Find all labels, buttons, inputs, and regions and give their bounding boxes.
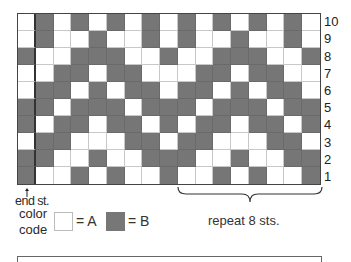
stitch-cell <box>178 167 196 184</box>
stitch-cell <box>142 65 160 82</box>
stitch-cell <box>89 48 107 65</box>
stitch-cell <box>196 31 214 48</box>
stitch-cell <box>36 14 54 31</box>
row-label: 1 <box>324 168 351 185</box>
stitch-cell <box>178 116 196 133</box>
stitch-cell <box>71 31 89 48</box>
stitch-cell <box>54 116 72 133</box>
stitch-cell <box>71 133 89 150</box>
stitch-cell <box>160 48 178 65</box>
stitch-cell <box>36 116 54 133</box>
stitch-cell <box>18 31 36 48</box>
stitch-cell <box>36 31 54 48</box>
row-label: 7 <box>324 65 351 82</box>
stitch-cell <box>160 167 178 184</box>
stitch-cell <box>213 116 231 133</box>
stitch-cell <box>302 82 320 99</box>
stitch-cell <box>107 14 125 31</box>
stitch-cell <box>196 65 214 82</box>
stitch-cell <box>178 99 196 116</box>
stitch-cell <box>284 48 302 65</box>
stitch-cell <box>249 48 267 65</box>
stitch-cell <box>196 82 214 99</box>
stitch-cell <box>196 150 214 167</box>
row-label: 5 <box>324 99 351 116</box>
stitch-cell <box>107 133 125 150</box>
stitch-cell <box>125 167 143 184</box>
row-label: 6 <box>324 82 351 99</box>
stitch-cell <box>160 14 178 31</box>
stitch-cell <box>107 31 125 48</box>
stitch-cell <box>213 150 231 167</box>
stitch-cell <box>249 99 267 116</box>
row-label: 2 <box>324 151 351 168</box>
stitch-cell <box>125 82 143 99</box>
stitch-cell <box>142 48 160 65</box>
stitch-cell <box>142 116 160 133</box>
stitch-cell <box>213 48 231 65</box>
stitch-cell <box>249 116 267 133</box>
stitch-cell <box>302 133 320 150</box>
stitch-cell <box>71 82 89 99</box>
stitch-cell <box>125 14 143 31</box>
stitch-cell <box>231 150 249 167</box>
legend-title-line2: code <box>19 222 47 238</box>
stitch-cell <box>142 150 160 167</box>
stitch-cell <box>18 150 36 167</box>
stitch-cell <box>89 167 107 184</box>
legend-title: color code <box>19 206 47 238</box>
stitch-cell <box>18 167 36 184</box>
stitch-cell <box>284 14 302 31</box>
stitch-cell <box>178 133 196 150</box>
stitch-cell <box>89 133 107 150</box>
stitch-cell <box>249 167 267 184</box>
stitch-cell <box>160 133 178 150</box>
stitch-cell <box>160 116 178 133</box>
knitting-chart-grid <box>17 13 321 185</box>
stitch-cell <box>142 31 160 48</box>
color-b-swatch <box>106 212 125 231</box>
stitch-cell <box>231 31 249 48</box>
stitch-cell <box>71 167 89 184</box>
stitch-cell <box>71 48 89 65</box>
stitch-cell <box>196 48 214 65</box>
stitch-cell <box>213 167 231 184</box>
stitch-cell <box>302 167 320 184</box>
stitch-cell <box>302 31 320 48</box>
stitch-cell <box>36 133 54 150</box>
row-label: 4 <box>324 116 351 133</box>
stitch-cell <box>125 65 143 82</box>
stitch-cell <box>178 65 196 82</box>
stitch-cell <box>107 65 125 82</box>
stitch-cell <box>71 150 89 167</box>
stitch-cell <box>302 150 320 167</box>
row-label: 10 <box>324 13 351 30</box>
stitch-cell <box>71 65 89 82</box>
stitch-cell <box>284 150 302 167</box>
stitch-cell <box>302 65 320 82</box>
stitch-cell <box>125 116 143 133</box>
stitch-cell <box>231 65 249 82</box>
stitch-cell <box>231 82 249 99</box>
row-label: 8 <box>324 47 351 64</box>
stitch-cell <box>267 14 285 31</box>
stitch-cell <box>107 48 125 65</box>
stitch-cell <box>213 14 231 31</box>
stitch-cell <box>267 99 285 116</box>
stitch-cell <box>178 150 196 167</box>
stitch-cell <box>267 150 285 167</box>
stitch-cell <box>142 99 160 116</box>
stitch-cell <box>89 31 107 48</box>
stitch-cell <box>213 99 231 116</box>
stitch-cell <box>249 65 267 82</box>
stitch-cell <box>18 133 36 150</box>
stitch-cell <box>231 48 249 65</box>
stitch-cell <box>213 82 231 99</box>
stitch-cell <box>249 133 267 150</box>
stitch-cell <box>249 150 267 167</box>
stitch-cell <box>196 99 214 116</box>
row-number-labels: 10987654321 <box>324 13 351 185</box>
stitch-cell <box>249 82 267 99</box>
legend-title-line1: color <box>19 206 47 222</box>
stitch-cell <box>284 82 302 99</box>
